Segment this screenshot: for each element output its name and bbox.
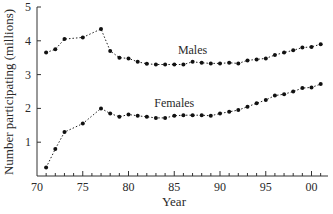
data-point	[310, 45, 314, 49]
y-tick-label: 5	[25, 0, 31, 14]
data-point	[163, 63, 167, 67]
data-point	[255, 57, 259, 61]
x-tick-label: 75	[77, 180, 89, 194]
data-point	[236, 61, 240, 65]
participation-chart: 1234570758085909500 MalesFemales Year Nu…	[0, 0, 333, 214]
data-point	[63, 130, 67, 134]
data-point	[282, 92, 286, 96]
data-point	[81, 35, 85, 39]
data-point	[200, 113, 204, 117]
series-females: Females	[44, 82, 323, 170]
series-label-females: Females	[154, 96, 194, 110]
data-point	[145, 62, 149, 66]
data-point	[218, 61, 222, 65]
series-males: Males	[44, 27, 323, 67]
data-point	[136, 60, 140, 64]
data-point	[300, 46, 304, 50]
data-point	[209, 114, 213, 118]
x-tick-label: 00	[306, 180, 318, 194]
data-point	[99, 27, 103, 31]
x-tick-label: 70	[31, 180, 43, 194]
data-point	[291, 90, 295, 94]
data-point	[209, 61, 213, 65]
data-point	[236, 108, 240, 112]
data-point	[300, 86, 304, 90]
data-point	[310, 85, 314, 89]
axis-lines	[37, 7, 328, 176]
data-point	[44, 166, 48, 170]
data-point	[273, 94, 277, 98]
data-point	[99, 106, 103, 110]
data-point	[291, 48, 295, 52]
data-point	[227, 110, 231, 114]
data-point	[191, 60, 195, 64]
y-tick-label: 2	[25, 101, 31, 115]
data-point	[246, 105, 250, 109]
data-point	[191, 113, 195, 117]
data-point	[127, 113, 131, 117]
data-point	[264, 56, 268, 60]
y-axis-title: Number participating (millions)	[1, 9, 16, 175]
data-point	[218, 112, 222, 116]
data-point	[163, 116, 167, 120]
y-tick-label: 3	[25, 68, 31, 82]
data-point	[53, 147, 57, 151]
data-point	[319, 42, 323, 46]
data-point	[117, 56, 121, 60]
series-group: MalesFemales	[44, 27, 323, 170]
data-point	[319, 82, 323, 86]
data-point	[53, 47, 57, 51]
data-point	[136, 114, 140, 118]
data-point	[264, 98, 268, 102]
data-point	[200, 61, 204, 65]
data-point	[63, 37, 67, 41]
data-point	[154, 63, 158, 67]
data-point	[181, 63, 185, 67]
y-tick-label: 1	[25, 135, 31, 149]
x-tick-label: 85	[168, 180, 180, 194]
data-point	[154, 116, 158, 120]
x-tick-label: 95	[260, 180, 272, 194]
series-label-males: Males	[178, 43, 208, 57]
data-point	[172, 63, 176, 67]
data-point	[181, 113, 185, 117]
data-point	[127, 56, 131, 60]
data-point	[81, 122, 85, 126]
data-point	[108, 112, 112, 116]
data-point	[172, 114, 176, 118]
x-tick-label: 80	[123, 180, 135, 194]
data-point	[255, 101, 259, 105]
x-axis-title: Year	[162, 194, 187, 209]
data-point	[246, 58, 250, 62]
data-point	[282, 51, 286, 55]
data-point	[227, 61, 231, 65]
data-point	[273, 53, 277, 57]
data-point	[44, 51, 48, 55]
data-point	[145, 115, 149, 119]
y-tick-label: 4	[25, 34, 31, 48]
x-tick-label: 90	[214, 180, 226, 194]
data-point	[117, 115, 121, 119]
data-point	[108, 49, 112, 53]
